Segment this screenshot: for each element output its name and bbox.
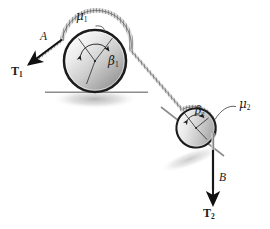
tension-1-arrow [29, 40, 63, 65]
beta2-label: β2 [195, 105, 205, 117]
segment-b-label: B [219, 172, 226, 184]
belt-friction-figure: μ1 μ2 β1 β2 A B T1 T2 [0, 0, 270, 229]
tension-1-label: T1 [11, 65, 23, 78]
mu2-label: μ2 [239, 98, 251, 111]
mu2-leader-line [215, 106, 236, 119]
rope-segment-span [131, 50, 183, 110]
beta1-label: β1 [108, 55, 119, 68]
mu1-label: μ1 [76, 10, 88, 23]
segment-a-label: A [40, 31, 47, 43]
tension-2-label: T2 [203, 207, 215, 220]
